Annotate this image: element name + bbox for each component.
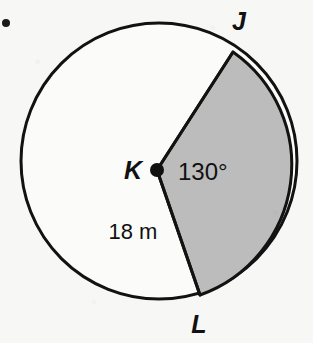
margin-bullet-icon bbox=[2, 19, 10, 27]
vertex-label-j: J bbox=[232, 7, 247, 35]
central-angle-label: 130° bbox=[178, 158, 228, 185]
circle-sector-figure: K 130° 18 m J L bbox=[0, 0, 313, 343]
figure-root: K 130° 18 m J L bbox=[0, 0, 313, 343]
vertex-label-l: L bbox=[191, 310, 206, 338]
radius-measure-label: 18 m bbox=[109, 219, 158, 244]
center-point-label: K bbox=[124, 156, 144, 184]
center-point-dot bbox=[150, 163, 164, 177]
